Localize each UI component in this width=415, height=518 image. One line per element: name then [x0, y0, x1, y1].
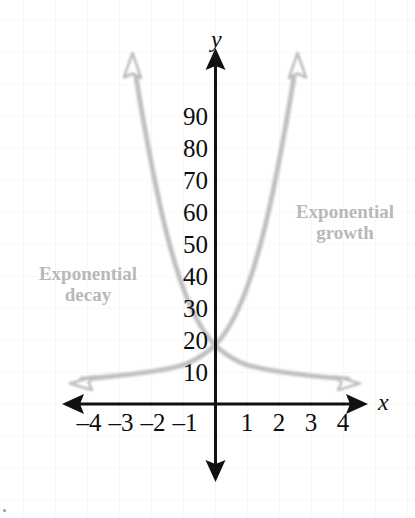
- x-tick-label-neg3: –3: [109, 410, 134, 435]
- decay-annotation-line-1: Exponential: [39, 263, 137, 284]
- background-grid: [0, 0, 415, 518]
- x-tick-label-1: 1: [241, 410, 254, 435]
- exponential-growth-annotation: Exponential growth: [296, 201, 394, 244]
- growth-annotation-line-1: Exponential: [296, 201, 394, 222]
- y-tick-label-40: 40: [183, 264, 208, 289]
- decay-annotation-line-2: decay: [39, 284, 137, 305]
- x-axis-label: x: [378, 390, 389, 414]
- y-tick-label-20: 20: [183, 328, 208, 353]
- x-tick-label-4: 4: [337, 410, 350, 435]
- exponential-functions-figure: 90 80 70 60 50 40 30 20 10 –4 –3 –2 –1 1…: [0, 0, 415, 518]
- x-tick-label-2: 2: [273, 410, 286, 435]
- growth-annotation-line-2: growth: [296, 222, 394, 243]
- x-tick-label-neg1: –1: [173, 410, 198, 435]
- y-tick-label-10: 10: [183, 360, 208, 385]
- y-tick-label-30: 30: [183, 296, 208, 321]
- y-tick-label-60: 60: [183, 200, 208, 225]
- y-tick-label-80: 80: [183, 136, 208, 161]
- x-tick-label-neg4: –4: [77, 410, 102, 435]
- x-tick-label-3: 3: [305, 410, 318, 435]
- y-tick-label-50: 50: [183, 232, 208, 257]
- graph-canvas: [0, 0, 415, 518]
- page-corner-speck: [3, 509, 6, 512]
- exponential-decay-annotation: Exponential decay: [39, 263, 137, 306]
- y-tick-label-70: 70: [183, 168, 208, 193]
- x-tick-label-neg2: –2: [141, 410, 166, 435]
- y-tick-label-90: 90: [183, 104, 208, 129]
- y-axis-label: y: [211, 27, 222, 51]
